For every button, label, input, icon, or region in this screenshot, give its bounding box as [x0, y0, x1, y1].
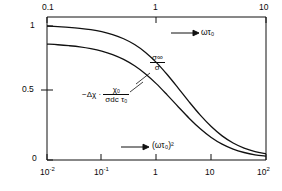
delta-chi-annotation: −Δχ · χ₀ σdc τ₀	[82, 86, 129, 105]
bottom-tick-label-10: 10	[205, 166, 214, 176]
top-axis-ticks	[47, 17, 266, 23]
bottom-axis-arrow-label: (ωτ₀)²	[152, 141, 174, 150]
sigma-ratio-denominator: σ	[150, 62, 165, 72]
y-tick-label-1: 1	[30, 21, 35, 30]
bottom-axis-ticks	[47, 154, 266, 160]
delta-chi-prefix: −Δχ ·	[82, 91, 101, 99]
sigma-ratio-annotation: σ∞ σ	[150, 54, 165, 73]
bottom-arrow-head	[143, 144, 149, 150]
top-tick-label-0p1: 0.1	[42, 3, 54, 12]
bottom-tick-label-1e2: 102	[257, 166, 270, 176]
annotation-leaders	[130, 73, 150, 92]
bottom-tick-label-1e-2: 10-2	[40, 166, 55, 176]
bottom-tick-label-1e-1: 10-1	[94, 166, 109, 176]
delta-chi-denominator: σdc τ₀	[103, 94, 129, 104]
top-tick-label-10: 10	[259, 3, 268, 12]
top-tick-label-1: 1	[153, 3, 158, 12]
relaxation-chart-figure: 1 0.5 0 0.1 1 10 10-2 10-1 1 10 102 ωτ₀ …	[0, 0, 282, 191]
delta-chi-numerator: χ₀	[103, 86, 129, 94]
y-tick-label-0: 0	[32, 154, 37, 163]
top-arrow-head	[193, 30, 199, 36]
chart-canvas	[0, 0, 282, 191]
axis-lines	[47, 17, 266, 160]
top-axis-arrow-label: ωτ₀	[201, 28, 214, 37]
bottom-tick-label-1: 1	[153, 166, 158, 176]
y-tick-label-0p5: 0.5	[22, 85, 34, 94]
sigma-ratio-numerator: σ∞	[150, 54, 165, 62]
curve-sigma-ratio	[47, 26, 266, 154]
